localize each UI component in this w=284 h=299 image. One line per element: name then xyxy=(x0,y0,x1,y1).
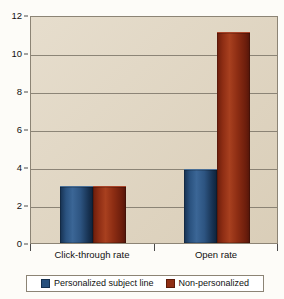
legend-swatch-blue-icon xyxy=(41,279,50,288)
legend-item[interactable]: Non-personalized xyxy=(166,279,250,288)
y-axis-tick-mark xyxy=(24,206,28,207)
y-axis-tick-mark xyxy=(24,244,28,245)
bar-non-personalized xyxy=(217,32,250,243)
y-axis-tick-label: 10 xyxy=(11,49,22,59)
bar-chart: 024681012 Click-through rateOpen rate Pe… xyxy=(0,0,284,299)
bar-personalized xyxy=(184,169,217,243)
y-axis-tick-label: 0 xyxy=(17,239,22,249)
y-axis-tick-mark xyxy=(24,92,28,93)
y-axis-tick-label: 6 xyxy=(17,125,22,135)
y-axis-tick-mark xyxy=(24,54,28,55)
y-axis-tick-label: 2 xyxy=(17,201,22,211)
y-axis-tick-label: 4 xyxy=(17,163,22,173)
legend-swatch-red-icon xyxy=(166,279,175,288)
bar-non-personalized xyxy=(93,186,126,243)
y-axis-tick-mark xyxy=(24,130,28,131)
y-axis-tick-mark xyxy=(24,16,28,17)
plot-area xyxy=(30,16,278,244)
legend-item[interactable]: Personalized subject line xyxy=(41,279,154,288)
legend-label: Personalized subject line xyxy=(54,279,154,288)
y-axis-tick-label: 12 xyxy=(11,11,22,21)
bar-personalized xyxy=(60,186,93,243)
x-axis-category-label: Open rate xyxy=(154,250,278,260)
y-axis: 024681012 xyxy=(0,0,30,260)
chart-legend: Personalized subject lineNon-personalize… xyxy=(26,275,264,292)
x-axis-category-label: Click-through rate xyxy=(30,250,154,260)
y-axis-tick-label: 8 xyxy=(17,87,22,97)
legend-label: Non-personalized xyxy=(179,279,250,288)
x-axis: Click-through rateOpen rate xyxy=(30,244,278,266)
y-axis-tick-mark xyxy=(24,168,28,169)
